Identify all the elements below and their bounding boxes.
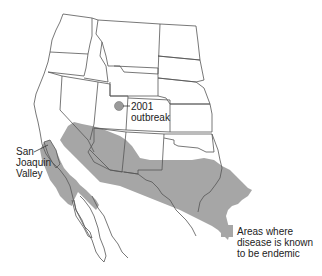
outbreak-marker [115, 102, 124, 111]
legend-swatch [221, 225, 233, 237]
outbreak-label-text: outbreak [131, 112, 170, 123]
valley-label-line2: Joaquin [16, 157, 51, 168]
endemic-region [40, 122, 252, 240]
legend-line3: to be endemic [237, 248, 313, 259]
outbreak-label: 2001 outbreak [131, 101, 170, 123]
legend-line2: disease is known [237, 237, 313, 248]
outbreak-label-year: 2001 [131, 101, 170, 112]
valley-label-line3: Valley [16, 168, 51, 179]
legend-line1: Areas where [237, 226, 313, 237]
san-joaquin-label: San Joaquin Valley [16, 146, 51, 179]
valley-label-line1: San [16, 146, 51, 157]
legend-text: Areas where disease is known to be endem… [237, 226, 313, 259]
